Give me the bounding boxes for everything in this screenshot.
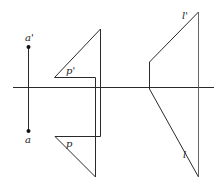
label-p-prime: p' — [66, 65, 75, 76]
label-a-prime: a' — [25, 32, 34, 43]
label-l-prime: l' — [182, 10, 188, 21]
label-p: p — [66, 138, 73, 149]
plane-p-hypotenuse — [55, 137, 96, 178]
point-a-prime — [27, 45, 31, 49]
label-a: a — [25, 134, 31, 145]
label-l: l — [183, 149, 186, 160]
projection-diagram: a' a p' p l' l — [0, 0, 223, 193]
plane-p-prime-triangle — [55, 29, 101, 137]
point-a — [27, 129, 31, 133]
line-l-prime-projection — [150, 12, 199, 177]
